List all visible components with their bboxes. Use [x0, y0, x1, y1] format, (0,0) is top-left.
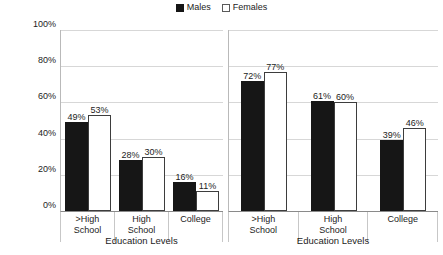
bar-females[interactable]: [403, 128, 426, 211]
chart-panel-right: 72% 77% 61%: [224, 0, 443, 255]
bar-males[interactable]: [311, 101, 334, 211]
y-tick-0: 0%: [26, 201, 56, 210]
bar-males[interactable]: [119, 160, 142, 211]
x-category-line1: High: [132, 214, 151, 224]
bar-females[interactable]: [142, 157, 165, 211]
bar-slot: 39%: [380, 30, 403, 211]
x-axis-title-right: Education Levels: [228, 236, 438, 246]
chart-panel-left: 0% 20% 40% 60% 80% 100% 49%: [0, 0, 224, 255]
bar-slot: 16%: [173, 30, 196, 211]
bar-slot: 28%: [119, 30, 142, 211]
bar-males[interactable]: [65, 122, 88, 211]
bar-females[interactable]: [334, 102, 357, 211]
x-category-line1: College: [180, 214, 211, 224]
bar-value-label: 11%: [199, 182, 216, 191]
bar-value-label: 53%: [90, 106, 108, 115]
bar-females[interactable]: [88, 115, 111, 211]
bar-value-label: 46%: [406, 119, 424, 128]
x-category-line1: >High: [251, 214, 275, 224]
bar-males[interactable]: [173, 182, 196, 211]
x-category-line1: College: [387, 214, 418, 224]
bar-slot: 77%: [264, 30, 287, 211]
y-tick-100: 100%: [26, 20, 56, 29]
bar-group: 49% 53%: [61, 30, 115, 211]
bar-value-label: 77%: [266, 63, 284, 72]
plot-area-right: 72% 77% 61%: [228, 30, 438, 212]
x-category-line1: >High: [76, 214, 100, 224]
bar-group: 72% 77%: [229, 30, 299, 211]
bar-slot: 46%: [403, 30, 426, 211]
bar-groups-right: 72% 77% 61%: [229, 30, 438, 211]
x-category-line1: High: [324, 214, 343, 224]
bar-slot: 11%: [196, 30, 219, 211]
bar-slot: 30%: [142, 30, 165, 211]
bar-slot: 60%: [334, 30, 357, 211]
bar-value-label: 30%: [144, 148, 162, 157]
bar-slot: 72%: [241, 30, 264, 211]
bar-value-label: 28%: [121, 151, 139, 160]
y-tick-80: 80%: [26, 56, 56, 65]
bar-males[interactable]: [241, 81, 264, 211]
bar-group: 61% 60%: [299, 30, 369, 211]
bar-value-label: 61%: [313, 92, 331, 101]
y-axis-left: 0% 20% 40% 60% 80% 100%: [26, 24, 56, 217]
bar-slot: 53%: [88, 30, 111, 211]
x-category-line2: School: [229, 225, 298, 236]
bar-groups-left: 49% 53% 28%: [61, 30, 223, 211]
y-tick-20: 20%: [26, 164, 56, 173]
bar-value-label: 49%: [67, 113, 85, 122]
bar-value-label: 16%: [175, 173, 193, 182]
bar-group: 16% 11%: [169, 30, 223, 211]
bar-value-label: 39%: [383, 131, 401, 140]
y-tick-60: 60%: [26, 92, 56, 101]
chart-figure: Males Females 0% 20% 40% 60% 80% 100%: [0, 0, 443, 255]
bar-value-label: 60%: [336, 93, 354, 102]
bar-males[interactable]: [380, 140, 403, 211]
bar-group: 39% 46%: [368, 30, 438, 211]
x-axis-title-left: Education Levels: [60, 236, 223, 246]
bar-group: 28% 30%: [115, 30, 169, 211]
bar-females[interactable]: [196, 191, 219, 211]
bar-slot: 49%: [65, 30, 88, 211]
bar-slot: 61%: [311, 30, 334, 211]
bar-value-label: 72%: [243, 72, 261, 81]
bar-females[interactable]: [264, 72, 287, 211]
plot-area-left: 49% 53% 28%: [60, 30, 223, 212]
y-tick-40: 40%: [26, 128, 56, 137]
